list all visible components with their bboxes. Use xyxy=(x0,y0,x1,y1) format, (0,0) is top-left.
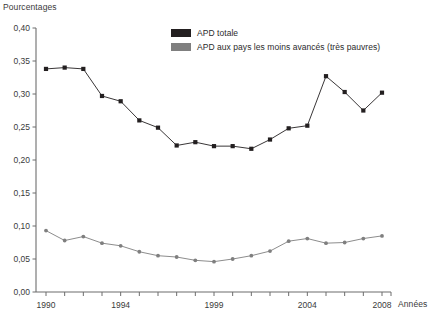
y-tick-label: 0,25 xyxy=(4,122,30,132)
y-tick-label: 0,35 xyxy=(4,56,30,66)
x-tick-label: 2004 xyxy=(290,300,324,310)
plot-area xyxy=(0,0,431,327)
y-tick-label: 0,00 xyxy=(4,287,30,297)
y-tick-label: 0,40 xyxy=(4,23,30,33)
y-tick-label: 0,20 xyxy=(4,155,30,165)
y-tick-label: 0,15 xyxy=(4,188,30,198)
x-tick-label: 2008 xyxy=(365,300,399,310)
y-tick-label: 0,10 xyxy=(4,221,30,231)
x-tick-label: 1990 xyxy=(29,300,63,310)
y-tick-label: 0,30 xyxy=(4,89,30,99)
x-tick-label: 1994 xyxy=(104,300,138,310)
x-tick-label: 1999 xyxy=(197,300,231,310)
y-tick-label: 0,05 xyxy=(4,254,30,264)
chart-container: Pourcentages Années APD totale APD aux p… xyxy=(0,0,431,327)
